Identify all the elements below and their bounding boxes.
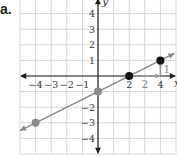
y-tick-label: 1: [89, 55, 95, 66]
y-tick-label: −2: [81, 102, 95, 113]
x-tick-label: −1: [75, 79, 89, 90]
x-tick-label: −3: [44, 79, 58, 90]
data-point: [94, 88, 102, 96]
x-axis-label: x: [174, 77, 177, 90]
data-point: [156, 56, 164, 64]
rise-label: 1: [163, 63, 170, 75]
coordinate-graph: xy −4−3−2−1244321−2−3−4 21: [0, 0, 177, 158]
x-tick-label: 2: [126, 79, 132, 90]
rise-run-annotations: 21: [129, 60, 170, 90]
y-tick-label: −4: [81, 133, 95, 144]
y-axis-arrow-down: [95, 148, 101, 154]
run-label: 2: [141, 78, 148, 90]
y-tick-label: 3: [89, 24, 95, 35]
y-tick-label: 2: [89, 39, 95, 50]
y-tick-label: −3: [81, 117, 95, 128]
y-axis-arrow-up: [95, 0, 101, 4]
y-tick-label: 4: [89, 8, 95, 19]
axes: xy: [20, 0, 177, 154]
x-tick-label: −4: [29, 79, 43, 90]
y-axis-label: y: [101, 0, 109, 8]
x-axis-arrow-left: [20, 73, 26, 79]
x-tick-label: −2: [60, 79, 74, 90]
x-tick-label: 4: [157, 79, 163, 90]
data-point: [32, 119, 40, 127]
data-point: [125, 72, 133, 80]
